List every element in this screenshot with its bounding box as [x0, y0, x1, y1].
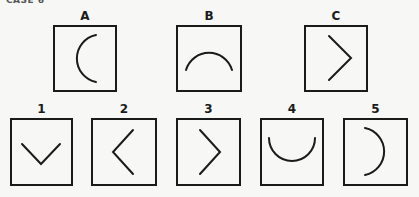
- chevron-down-icon: [10, 118, 73, 186]
- arc-opening-up-icon: [260, 118, 324, 186]
- option-label: 4: [260, 102, 324, 116]
- answer-option-2[interactable]: 2: [91, 118, 157, 186]
- option-label: 1: [10, 102, 73, 116]
- panel-label: A: [53, 9, 117, 23]
- option-label: 5: [343, 102, 408, 116]
- panel-label: B: [176, 9, 242, 23]
- chevron-right-icon: [304, 25, 368, 92]
- option-label: 2: [91, 102, 157, 116]
- arc-opening-down-icon: [176, 25, 242, 92]
- stimulus-panel-c: C: [304, 25, 368, 92]
- answer-option-3[interactable]: 3: [176, 118, 241, 186]
- stimulus-panel-a: A: [53, 25, 117, 92]
- answer-option-4[interactable]: 4: [260, 118, 324, 186]
- chevron-left-icon: [91, 118, 157, 186]
- chevron-right-icon: [176, 118, 241, 186]
- answer-option-5[interactable]: 5: [343, 118, 408, 186]
- panel-label: C: [304, 9, 368, 23]
- stimulus-panel-b: B: [176, 25, 242, 92]
- arc-opening-left-icon: [343, 118, 408, 186]
- option-label: 3: [176, 102, 241, 116]
- arc-opening-right-icon: [53, 25, 117, 92]
- answer-option-1[interactable]: 1: [10, 118, 73, 186]
- case-header: CASE 6: [6, 0, 45, 5]
